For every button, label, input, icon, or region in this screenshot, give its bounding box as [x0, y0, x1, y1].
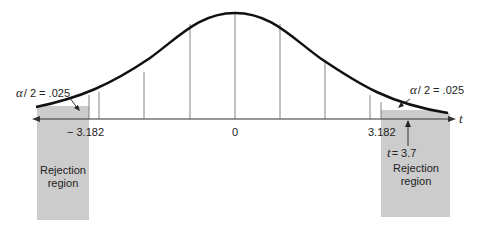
t-distribution-diagram: t − 3.182 0 3.182 α/ 2 = .025 α/ 2 = .02…	[0, 0, 478, 233]
axis-label-t: t	[459, 111, 463, 126]
left-region-label-line2: region	[48, 177, 79, 189]
axis-right-arrow	[448, 116, 456, 122]
left-rejection-region	[37, 106, 89, 220]
left-region-label-line1: Rejection	[40, 164, 86, 176]
left-alpha-label: α/ 2 = .025	[16, 85, 70, 100]
left-critical-label: − 3.182	[67, 126, 104, 138]
right-region-label-line2: region	[401, 175, 432, 187]
right-alpha-label: α/ 2 = .025	[410, 82, 464, 97]
density-curve	[36, 13, 448, 113]
center-label: 0	[232, 126, 238, 138]
vertical-gridlines	[89, 13, 381, 119]
right-region-label-line1: Rejection	[393, 162, 439, 174]
test-stat-label: t= 3.7	[387, 145, 416, 160]
right-critical-label: 3.182	[368, 126, 396, 138]
axis-left-arrow	[32, 116, 40, 122]
